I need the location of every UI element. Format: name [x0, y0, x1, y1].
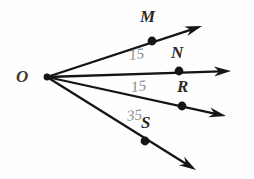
point-label-n: N: [171, 44, 183, 61]
point-label-m: M: [140, 8, 155, 25]
ray-os-shaft: [47, 77, 187, 164]
angle-measure-mon: 15: [128, 46, 145, 63]
ray-on-shaft: [47, 71, 220, 77]
point-dot-m: [148, 37, 157, 46]
ray-os-arrowhead-icon: [179, 157, 196, 170]
angle-measure-ros: 35: [126, 107, 142, 123]
vertex-dot-o: [44, 74, 51, 81]
point-dot-n: [175, 67, 184, 76]
angle-diagram: O M N R S 15 15 35: [0, 0, 254, 179]
point-dot-r: [178, 102, 187, 111]
point-label-s: S: [141, 114, 150, 131]
vertex-label-o: O: [16, 68, 28, 85]
angle-measure-nor: 15: [130, 78, 147, 95]
point-label-r: R: [177, 78, 188, 95]
point-dot-s: [141, 137, 150, 146]
diagram-canvas: [0, 0, 254, 179]
